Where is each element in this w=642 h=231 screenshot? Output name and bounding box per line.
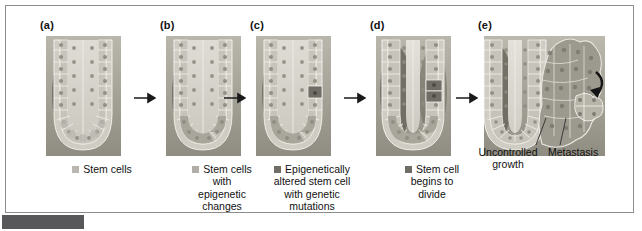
arrow-b-to-c xyxy=(224,92,246,104)
panel-d: (d) xyxy=(376,18,496,200)
callout-leader-lines xyxy=(474,118,624,152)
crypt-with-genetically-mutated-stem-cell-image xyxy=(256,36,331,156)
legend-swatch-epigenetic-stem-cells xyxy=(192,166,199,173)
legend-line: altered stem cell xyxy=(256,175,368,187)
arrow-c-to-d xyxy=(344,92,366,104)
normal-intestinal-crypt-image xyxy=(46,36,121,156)
legend-line: divide xyxy=(376,188,488,200)
legend-line: with genetic xyxy=(256,188,368,200)
panel-c-legend: Epigenetically altered stem cell with ge… xyxy=(256,163,368,213)
caption-bar xyxy=(2,215,84,229)
legend-swatch-dividing-stem-cell xyxy=(405,166,412,173)
crypt-illustration-c xyxy=(256,36,331,156)
panel-e-label: (e) xyxy=(478,18,608,32)
panel-c-label: (c) xyxy=(250,18,376,32)
callout-line: growth xyxy=(475,158,541,170)
crypt-illustration-d xyxy=(376,36,451,156)
arrow-a-to-b xyxy=(134,92,156,104)
legend-line: Stem cells xyxy=(203,163,251,175)
legend-line: Stem cells xyxy=(83,163,131,175)
panel-a-label: (a) xyxy=(40,18,166,32)
panel-d-legend: Stem cell begins to divide xyxy=(376,163,488,200)
panel-a-legend: Stem cells xyxy=(46,163,158,175)
panel-e: (e) xyxy=(484,18,608,156)
legend-line: Stem cell xyxy=(416,163,459,175)
legend-line: begins to xyxy=(376,175,488,187)
figure-root: (a) xyxy=(0,0,642,231)
crypt-illustration-a xyxy=(46,36,121,156)
legend-swatch-stem-cells xyxy=(72,166,79,173)
legend-swatch-altered-stem-cell xyxy=(274,166,281,173)
legend-line: mutations xyxy=(256,200,368,212)
panel-c: (c) xyxy=(256,18,376,213)
arrow-d-to-e xyxy=(456,92,478,104)
legend-line: Epigenetically xyxy=(285,163,350,175)
crypt-with-dividing-stem-cell-image xyxy=(376,36,451,156)
